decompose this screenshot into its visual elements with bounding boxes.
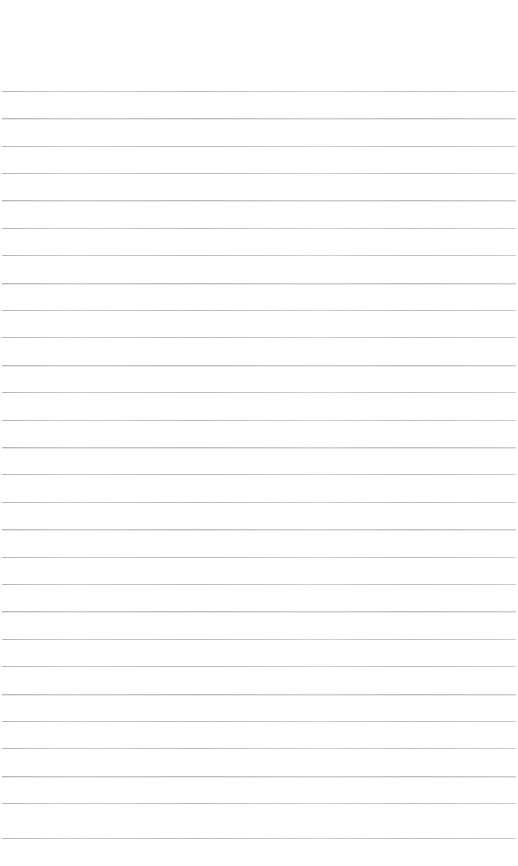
ruled-line [2, 420, 516, 421]
page-bottom-margin [0, 846, 518, 866]
ruled-line [2, 365, 516, 366]
ruled-line [2, 283, 516, 284]
ruled-line [2, 447, 516, 448]
notebook-page [0, 0, 518, 866]
ruled-line [2, 529, 516, 530]
ruled-line [2, 200, 516, 201]
ruled-line [2, 502, 516, 503]
ruled-line [2, 146, 516, 147]
ruled-line [2, 310, 516, 311]
ruled-line [2, 337, 516, 338]
ruled-line [2, 228, 516, 229]
ruled-line [2, 694, 516, 695]
ruled-line [2, 173, 516, 174]
ruled-line [2, 611, 516, 612]
ruled-line [2, 255, 516, 256]
ruled-line [2, 721, 516, 722]
ruled-line [2, 118, 516, 119]
ruled-line [2, 748, 516, 749]
ruled-line [2, 639, 516, 640]
ruled-line [2, 838, 516, 839]
ruled-line [2, 474, 516, 475]
ruled-line [2, 557, 516, 558]
ruled-line [2, 776, 516, 777]
ruled-line [2, 803, 516, 804]
ruled-line [2, 392, 516, 393]
ruled-line [2, 584, 516, 585]
ruled-lines-container [0, 0, 518, 866]
ruled-line [2, 666, 516, 667]
ruled-line [2, 91, 516, 92]
